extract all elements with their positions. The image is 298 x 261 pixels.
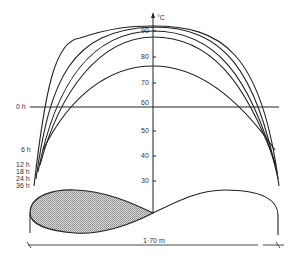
curve-36h (34, 26, 279, 186)
label-12h: 12 h (16, 161, 30, 168)
curve-6h (43, 66, 275, 150)
dimension-line: 1·70 m (27, 237, 284, 248)
dimension-label: 1·70 m (143, 237, 165, 244)
tick-80: 80 (141, 53, 149, 60)
tick-50: 50 (141, 127, 149, 134)
tick-30: 30 (141, 177, 149, 184)
tick-70: 70 (141, 79, 149, 86)
tick-60: 60 (141, 99, 149, 106)
label-6h: 6 h (21, 146, 31, 153)
open-lobe (153, 190, 278, 235)
tick-40: 40 (141, 152, 149, 159)
label-36h: 36 h (16, 182, 30, 189)
curve-12h (40, 37, 276, 165)
axis-arrow-icon (151, 12, 155, 18)
label-0h: 0 h (16, 103, 26, 110)
curve-18h (38, 31, 277, 172)
shaded-lobe (30, 190, 153, 233)
y-axis: °C 90 80 70 60 50 40 30 (141, 12, 165, 213)
temperature-profile-diagram: °C 90 80 70 60 50 40 30 0 h 6 h 12 h 18 … (0, 0, 298, 261)
label-24h: 24 h (16, 175, 30, 182)
label-18h: 18 h (16, 168, 30, 175)
curve-24h (36, 27, 278, 179)
y-axis-unit: °C (157, 14, 165, 21)
temperature-curves (34, 26, 279, 186)
cross-section (30, 190, 278, 235)
